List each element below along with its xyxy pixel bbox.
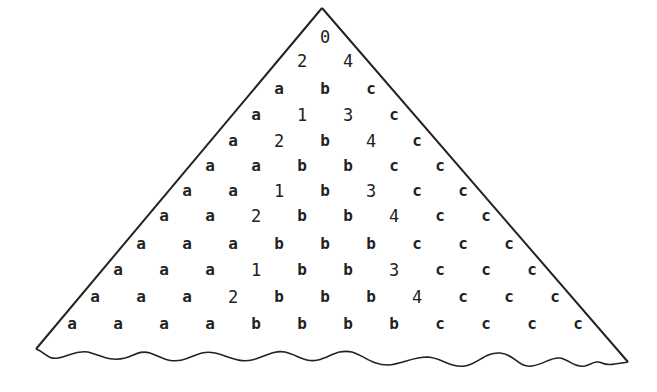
array-cell: 2 (297, 53, 307, 70)
array-cell: b (366, 289, 376, 305)
array-cell: c (527, 262, 537, 278)
array-cell: a (228, 236, 238, 252)
array-cell: b (297, 262, 307, 278)
array-cell: a (90, 289, 100, 305)
array-cell: b (297, 208, 307, 224)
array-cell: b (343, 208, 353, 224)
array-cell: c (481, 208, 491, 224)
array-cell: c (527, 316, 537, 332)
array-cell: c (458, 236, 468, 252)
array-cell: b (320, 236, 330, 252)
array-cell: 4 (366, 133, 376, 150)
array-cell: 1 (251, 262, 261, 279)
array-cell: b (343, 262, 353, 278)
array-cell: c (481, 316, 491, 332)
array-cell: 3 (366, 183, 376, 200)
array-cell: b (343, 158, 353, 174)
array-cell: c (435, 158, 445, 174)
array-cell: a (205, 208, 215, 224)
array-cell: b (297, 316, 307, 332)
array-cell: a (136, 236, 146, 252)
array-cell: a (182, 236, 192, 252)
array-cell: 0 (320, 29, 330, 46)
array-cell: c (412, 236, 422, 252)
array-cell: 2 (274, 133, 284, 150)
array-cell: a (182, 289, 192, 305)
array-cell: c (435, 316, 445, 332)
array-cell: b (320, 183, 330, 199)
array-cell: b (251, 316, 261, 332)
array-cell: b (320, 289, 330, 305)
array-cell: a (159, 208, 169, 224)
array-cell: a (251, 158, 261, 174)
array-cell: c (504, 289, 514, 305)
array-cell: a (274, 81, 284, 97)
array-cell: c (435, 208, 445, 224)
array-cell: 2 (228, 289, 238, 306)
array-cell: a (205, 158, 215, 174)
array-cell: c (504, 236, 514, 252)
array-cell: c (389, 107, 399, 123)
array-cell: 3 (343, 107, 353, 124)
array-cell: c (435, 262, 445, 278)
array-cell: a (182, 183, 192, 199)
array-cell: a (159, 262, 169, 278)
array-cell: 1 (297, 107, 307, 124)
array-cell: b (274, 289, 284, 305)
array-cell: a (113, 316, 123, 332)
array-cell: c (389, 158, 399, 174)
array-cell: b (297, 158, 307, 174)
array-cell: a (228, 183, 238, 199)
wavy-bottom-edge (36, 349, 628, 366)
array-cell: a (113, 262, 123, 278)
array-cell: 4 (412, 289, 422, 306)
array-cell: b (366, 236, 376, 252)
array-cell: c (550, 289, 560, 305)
array-cell: a (205, 262, 215, 278)
array-cell: b (274, 236, 284, 252)
array-cell: 1 (274, 183, 284, 200)
triangle-diagram: 024abca13ca2b4caabbccaa1b3ccaa2bb4ccaaab… (0, 0, 657, 392)
array-cell: c (573, 316, 583, 332)
array-cell: a (67, 316, 77, 332)
array-cell: b (320, 81, 330, 97)
array-cell: c (412, 133, 422, 149)
array-cell: c (366, 81, 376, 97)
array-cell: 2 (251, 208, 261, 225)
array-cell: a (159, 316, 169, 332)
array-cell: b (320, 133, 330, 149)
array-cell: a (205, 316, 215, 332)
array-cell: a (251, 107, 261, 123)
array-cell: b (389, 316, 399, 332)
array-cell: c (458, 183, 468, 199)
array-cell: a (136, 289, 146, 305)
array-cell: 4 (389, 208, 399, 225)
array-cell: 4 (343, 53, 353, 70)
array-cell: c (481, 262, 491, 278)
array-cell: c (458, 289, 468, 305)
array-cell: c (412, 183, 422, 199)
array-cell: b (343, 316, 353, 332)
array-cell: a (228, 133, 238, 149)
array-cell: 3 (389, 262, 399, 279)
